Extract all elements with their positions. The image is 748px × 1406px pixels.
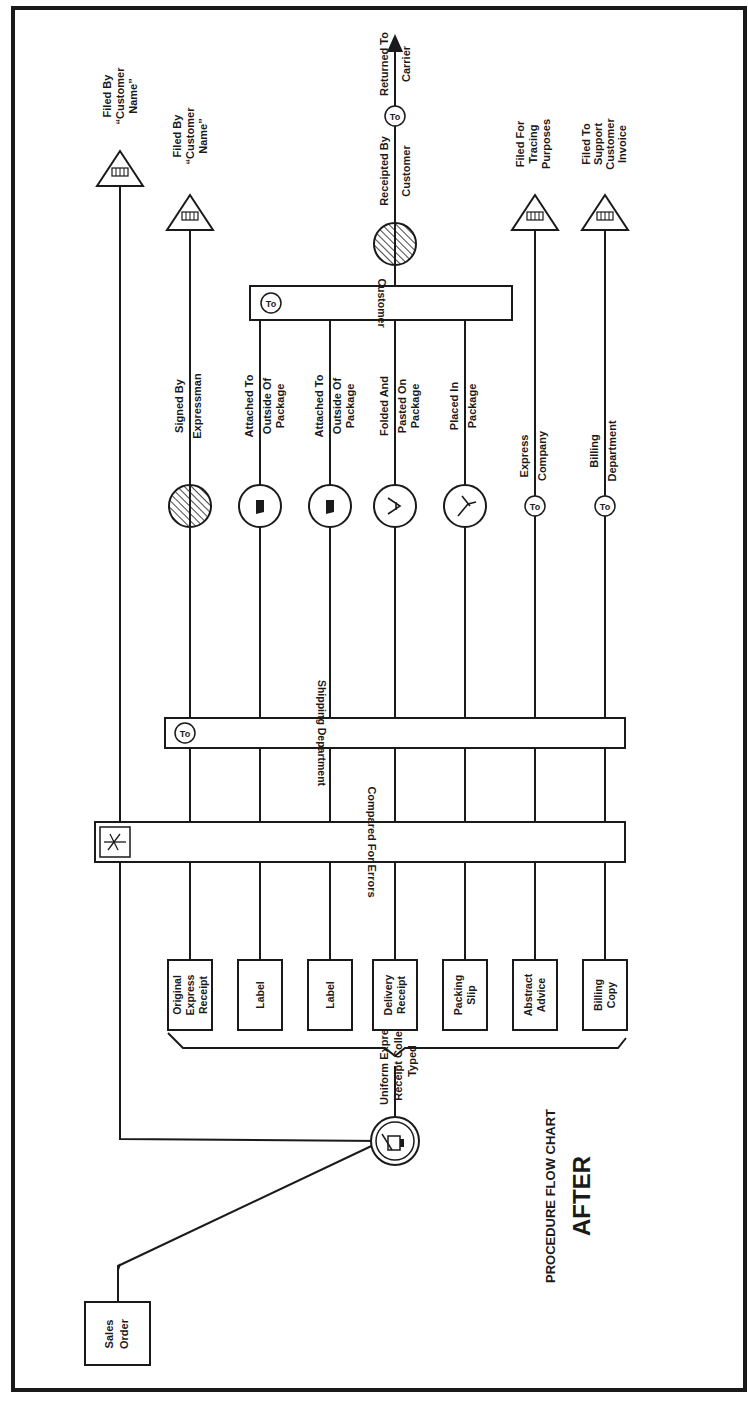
doc-label: Abstract xyxy=(522,973,534,1016)
doc-label: Slip xyxy=(465,985,477,1004)
compared-for-errors-label: Compared For Errors xyxy=(366,786,378,897)
file-label: Invoice xyxy=(616,125,628,163)
op-label: Attached To xyxy=(243,374,255,437)
op-label: Signed By xyxy=(173,378,185,433)
fold-paste-icon xyxy=(374,485,416,527)
file-label: “Customer xyxy=(114,67,126,125)
file-label: Name” xyxy=(127,78,139,113)
file-label: Customer xyxy=(604,118,616,170)
doc-delivery-receipt: Delivery Receipt xyxy=(373,960,417,1030)
file-label: Purposes xyxy=(540,119,552,169)
doc-label: Label xyxy=(324,981,336,1009)
doc-label: Receipt xyxy=(395,976,407,1014)
op-label: Billing xyxy=(588,434,600,468)
op-label: Company xyxy=(536,430,548,481)
file-label: Tracing xyxy=(527,124,539,163)
file-label: Filed By xyxy=(101,74,113,118)
to-symbol-label: To xyxy=(530,502,541,512)
op-label: Package xyxy=(466,384,478,429)
op-label: Package xyxy=(409,384,421,429)
sales-order-label-line2: Order xyxy=(118,1318,130,1349)
doc-label: Billing xyxy=(592,979,604,1011)
row-label-1: Attached To Outside Of Package xyxy=(239,374,286,527)
doc-abstract-advice: Abstract Advice xyxy=(513,960,557,1030)
hand-glyph xyxy=(326,500,334,514)
op-label: Pasted On xyxy=(396,379,408,434)
customer-label: Customer xyxy=(376,278,388,327)
place-in-package-icon xyxy=(444,485,486,527)
file-label: Filed To xyxy=(580,123,592,165)
file-sales-order-copy: Filed By “Customer Name” xyxy=(97,67,143,186)
typing-label-line3: Typed xyxy=(406,1045,418,1077)
document-boxes: Original Express Receipt Label Label Del… xyxy=(168,960,627,1030)
op-label: Folded And xyxy=(378,376,390,436)
doc-label: Original xyxy=(171,975,183,1015)
op-label: Express xyxy=(518,435,530,478)
chart-title: PROCEDURE FLOW CHART xyxy=(543,1109,558,1283)
chart-subtitle: AFTER xyxy=(568,1156,595,1236)
doc-label: Express xyxy=(184,974,196,1015)
typing-label-line2: Receipt Collect xyxy=(392,1021,404,1101)
receipt-signature-icon xyxy=(374,223,416,265)
doc-label-1: Label xyxy=(238,960,282,1030)
doc-label: Receipt xyxy=(197,976,209,1014)
op-label: Expressman xyxy=(191,373,203,439)
row-label-2: Attached To Outside Of Package xyxy=(309,374,356,527)
to-symbol-label: To xyxy=(600,502,611,512)
doc-label: Delivery xyxy=(382,974,394,1015)
to-symbol-label: To xyxy=(180,729,191,739)
file-label: Support xyxy=(592,123,604,165)
doc-label: Advice xyxy=(535,978,547,1013)
op-label: Department xyxy=(606,420,618,481)
op-label: Package xyxy=(344,384,356,429)
typing-operation-circle xyxy=(371,1117,419,1165)
compared-for-errors-bar: Compared For Errors xyxy=(95,786,625,897)
file-label: Filed For xyxy=(514,120,526,167)
doc-label: Copy xyxy=(605,982,617,1008)
op-label: Returned To xyxy=(378,32,390,96)
signature-operation-icon xyxy=(169,485,211,527)
op-label: Customer xyxy=(400,145,412,197)
op-label: Placed In xyxy=(448,382,460,431)
doc-label-2: Label xyxy=(308,960,352,1030)
file-label: Name” xyxy=(197,118,209,153)
op-label: Carrier xyxy=(400,45,412,82)
op-label: Receipted By xyxy=(378,135,390,206)
connector-sales-to-typed xyxy=(118,1141,382,1288)
to-symbol-label: To xyxy=(266,299,277,309)
sales-order-label-line1: Sales xyxy=(103,1320,115,1349)
procedure-flow-chart: Sales Order Uniform Express Receipt Coll… xyxy=(0,0,748,1406)
doc-packing-slip: Packing Slip xyxy=(443,960,487,1030)
op-label: Outside Of xyxy=(331,378,343,435)
to-symbol-label: To xyxy=(390,112,401,122)
doc-label: Label xyxy=(254,981,266,1009)
frame-border xyxy=(13,8,745,1390)
doc-label: Packing xyxy=(452,975,464,1015)
customer-bar: To Customer xyxy=(250,278,512,327)
shipping-department-label: Shipping Department xyxy=(316,680,328,787)
file-label: “Customer xyxy=(184,107,196,165)
file-label: Filed By xyxy=(171,114,183,158)
op-label: Outside Of xyxy=(261,378,273,435)
hand-glyph xyxy=(256,500,264,514)
doc-billing-copy: Billing Copy xyxy=(583,960,627,1030)
op-label: Attached To xyxy=(313,374,325,437)
op-label: Package xyxy=(274,384,286,429)
doc-original-express-receipt: Original Express Receipt xyxy=(168,960,212,1030)
sales-order-box: Sales Order xyxy=(85,1302,150,1365)
